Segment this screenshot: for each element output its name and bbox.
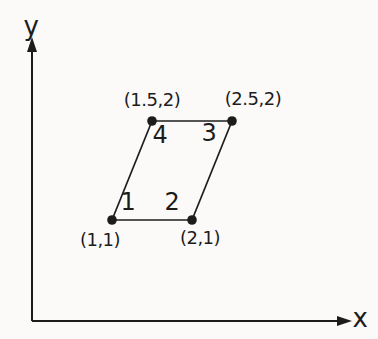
x-axis-arrowhead — [337, 316, 352, 326]
node-2-number: 2 — [165, 190, 180, 214]
y-axis-label: y — [24, 13, 39, 39]
node-1-coordinates: (1,1) — [80, 231, 120, 249]
diagram-canvas — [0, 0, 378, 339]
node-3-number: 3 — [202, 121, 217, 145]
node-1-dot — [107, 215, 117, 225]
node-3-coordinates: (2.5,2) — [225, 90, 281, 108]
node-1-number: 1 — [121, 190, 136, 214]
element-coordinate-diagram: y x (1,1) (2,1) (2.5,2) (1.5,2) 1 2 3 4 — [0, 0, 378, 339]
node-3-dot — [227, 116, 237, 126]
node-4-number: 4 — [153, 123, 168, 147]
node-2-coordinates: (2,1) — [180, 229, 220, 247]
node-4-coordinates: (1.5,2) — [124, 91, 180, 109]
x-axis-label: x — [353, 305, 368, 331]
node-2-dot — [187, 215, 197, 225]
